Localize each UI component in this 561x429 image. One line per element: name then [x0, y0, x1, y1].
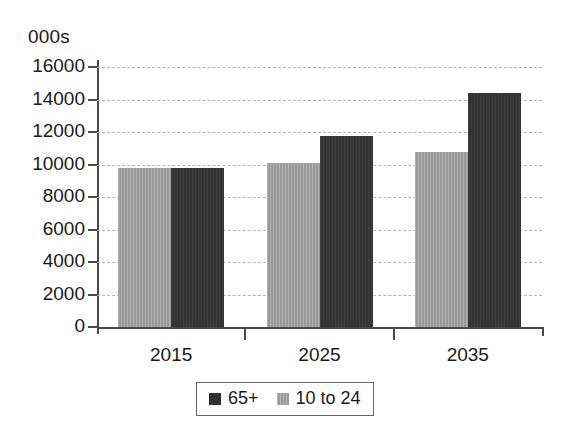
- y-axis-tick-label: 8000: [3, 185, 85, 207]
- x-axis-tick-label: 2025: [245, 344, 393, 366]
- y-axis-tick: [88, 326, 97, 328]
- y-axis-tick: [88, 294, 97, 296]
- bar: [320, 136, 373, 327]
- bar-group: [415, 67, 521, 327]
- bar-group: [118, 67, 224, 327]
- y-axis-tick: [88, 99, 97, 101]
- y-axis-tick: [88, 261, 97, 263]
- legend-swatch-icon: [277, 393, 289, 405]
- gridline: [97, 327, 542, 328]
- x-axis-tick-label: 2015: [97, 344, 245, 366]
- legend-entry[interactable]: 10 to 24: [277, 388, 361, 409]
- bar-group: [267, 67, 373, 327]
- x-axis-right-cap: [542, 327, 544, 336]
- y-axis-tick: [88, 229, 97, 231]
- y-axis-tick-label: 6000: [3, 218, 85, 240]
- bar-chart: 000s 02000400060008000100001200014000160…: [0, 0, 561, 429]
- x-axis-tick: [244, 329, 246, 340]
- x-axis-tick-label: 2035: [394, 344, 542, 366]
- chart-legend: 65+10 to 24: [196, 382, 374, 416]
- y-axis-tick-label: 0: [3, 315, 85, 337]
- bar: [171, 168, 224, 327]
- y-axis-tick: [88, 66, 97, 68]
- plot-area: [97, 67, 542, 327]
- y-axis-tick-label: 16000: [3, 55, 85, 77]
- y-axis-tick-label: 4000: [3, 250, 85, 272]
- legend-label: 10 to 24: [296, 388, 361, 409]
- y-axis-unit-label: 000s: [28, 26, 70, 48]
- legend-swatch-icon: [209, 393, 221, 405]
- y-axis-tick-label: 12000: [3, 120, 85, 142]
- y-axis-tick-label: 10000: [3, 153, 85, 175]
- legend-label: 65+: [228, 388, 259, 409]
- bar: [415, 152, 468, 328]
- y-axis-tick-labels: 0200040006000800010000120001400016000: [0, 67, 85, 327]
- legend-entry[interactable]: 65+: [209, 388, 259, 409]
- y-axis-tick-label: 2000: [3, 283, 85, 305]
- y-axis-tick: [88, 196, 97, 198]
- bar: [267, 163, 320, 327]
- y-axis-tick: [88, 131, 97, 133]
- x-axis-tick: [393, 329, 395, 340]
- bar: [468, 93, 521, 327]
- bar: [118, 168, 171, 327]
- y-axis-tick: [88, 164, 97, 166]
- y-axis-tick-label: 14000: [3, 88, 85, 110]
